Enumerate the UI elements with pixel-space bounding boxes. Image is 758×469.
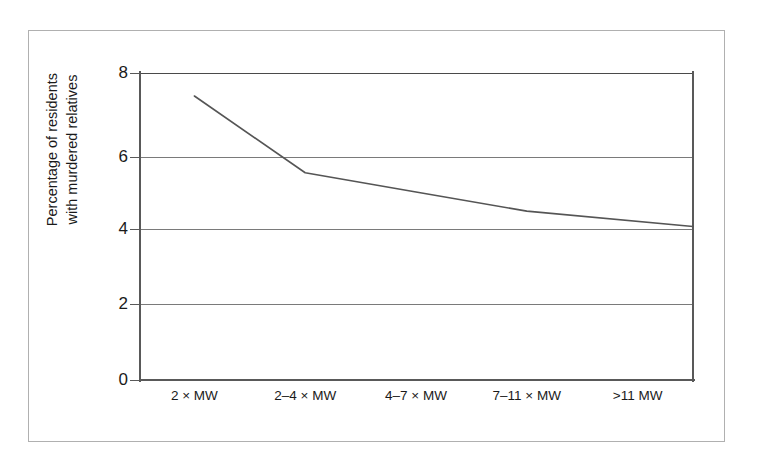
- y-tick-label-8: 8: [88, 64, 128, 81]
- y-axis-title: Percentage of residents with murdered re…: [43, 25, 82, 275]
- x-axis-tick-labels: 2 × MW 2–4 × MW 4–7 × MW 7–11 × MW >11 M…: [139, 388, 693, 412]
- y-tick-mark-2: [130, 304, 139, 305]
- y-axis-title-line-2: with murdered relatives: [63, 25, 83, 275]
- y-axis-title-line-1: Percentage of residents: [43, 25, 63, 275]
- y-tick-mark-0: [130, 380, 139, 381]
- x-tick-label-3: 7–11 × MW: [471, 388, 582, 412]
- x-tick-label-2: 4–7 × MW: [361, 388, 472, 412]
- y-tick-label-0: 0: [88, 371, 128, 388]
- y-tick-label-6: 6: [88, 148, 128, 165]
- y-axis-tick-labels: 8 6 4 2 0: [84, 0, 128, 469]
- y-tick-label-4: 4: [88, 220, 128, 237]
- chart-page: 8 6 4 2 0 2 × MW 2–4 × MW 4–: [0, 0, 758, 469]
- y-tick-mark-8: [130, 73, 139, 74]
- line-chart: 8 6 4 2 0 2 × MW 2–4 × MW 4–: [0, 0, 758, 469]
- y-tick-mark-4: [130, 229, 139, 230]
- y-tick-mark-6: [130, 157, 139, 158]
- x-tick-label-0: 2 × MW: [139, 388, 250, 412]
- series-polyline: [194, 96, 693, 226]
- series-line-percentage-of-residents-with-murdered-relatives: [139, 73, 693, 380]
- y-tick-label-2: 2: [88, 295, 128, 312]
- x-tick-label-4: >11 MW: [582, 388, 693, 412]
- x-tick-label-1: 2–4 × MW: [250, 388, 361, 412]
